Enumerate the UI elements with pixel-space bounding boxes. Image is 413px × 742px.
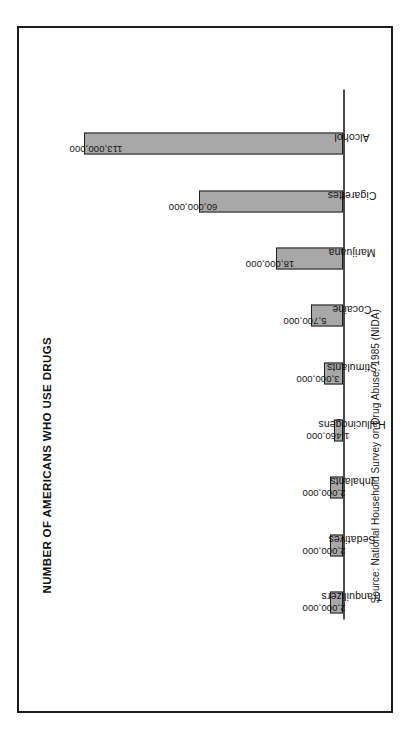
chart-page: NUMBER OF AMERICANS WHO USE DRUGS 2,000,… [0,0,413,742]
bar-value-label: 2,000,000 [302,602,345,613]
bar-group: 18,000,000Marijuana [81,247,343,269]
source-note: Source: National Household Survey on Dru… [370,309,381,604]
bar-value-label: 113,000,000 [69,143,122,154]
bar [199,190,343,212]
bar-value-label: 2,000,000 [302,545,345,556]
bar-category-label: Inhalants [330,475,374,487]
bar-category-label: Cocaine [332,303,371,315]
bar-value-label: 2,000,000 [302,487,345,498]
bar-value-label: 60,000,000 [169,201,218,212]
bar-group: 2,000,000Tranquilizers [81,591,343,613]
bar-series: 2,000,000Tranquilizers2,000,000Sedatives… [81,89,343,619]
bar-value-label: 5,700,000 [283,315,326,326]
bar-value-label: 18,000,000 [246,258,295,269]
bar-group: 2,000,000Sedatives [81,534,343,556]
bar-value-label: 1,460,000 [307,430,350,441]
plot-area: 2,000,000Tranquilizers2,000,000Sedatives… [77,28,345,711]
chart-frame-border: NUMBER OF AMERICANS WHO USE DRUGS 2,000,… [17,26,393,713]
bar-group: 5,700,000Cocaine [81,304,343,326]
bar-group: 1,460,000Hallucinogens [81,419,343,441]
bar-group: 113,000,000Alcohol [81,132,343,154]
bar-group: 3,000,000Stimulants [81,362,343,384]
rotated-chart-stage: NUMBER OF AMERICANS WHO USE DRUGS 2,000,… [19,28,391,711]
bar-category-label: Cigarettes [328,189,377,201]
bar-group: 2,000,000Inhalants [81,476,343,498]
bar-category-label: Marijuana [328,246,375,258]
bar-group: 60,000,000Cigarettes [81,190,343,212]
bar-category-label: Sedatives [328,533,375,545]
bar-category-label: Alcohol [334,131,369,143]
page-title: NUMBER OF AMERICANS WHO USE DRUGS [41,337,53,593]
bar-value-label: 3,000,000 [297,373,340,384]
